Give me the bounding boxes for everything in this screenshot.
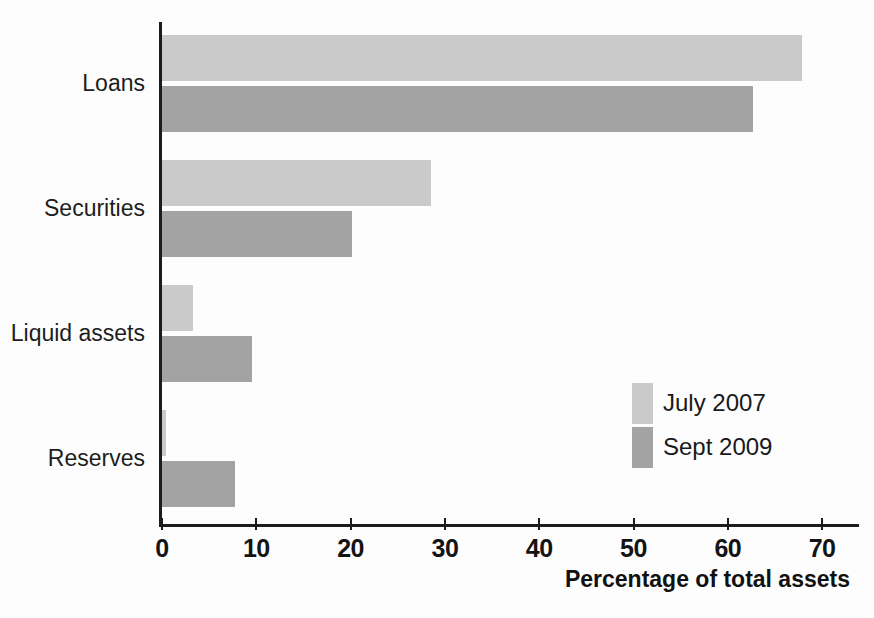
bar-loans-sept-2009: [162, 86, 753, 132]
category-label-reserves: Reserves: [48, 445, 145, 472]
x-axis-tick-20: [350, 518, 352, 530]
x-axis-title: Percentage of total assets: [565, 566, 850, 593]
legend-swatch-sept-2009: [632, 427, 653, 468]
x-axis-tick-label-30: 30: [431, 534, 458, 563]
x-axis-tick-60: [727, 518, 729, 530]
x-axis-tick-70: [821, 518, 823, 530]
x-axis-tick-40: [538, 518, 540, 530]
x-axis-tick-label-20: 20: [337, 534, 364, 563]
bar-reserves-sept-2009: [162, 461, 235, 507]
x-axis-line: [159, 524, 859, 527]
x-axis-tick-30: [444, 518, 446, 530]
bar-liquid-assets-sept-2009: [162, 336, 252, 382]
category-label-loans: Loans: [82, 70, 145, 97]
category-label-liquid-assets: Liquid assets: [11, 320, 145, 347]
bar-loans-july-2007: [162, 35, 802, 81]
x-axis-tick-0: [161, 518, 163, 530]
x-axis-tick-label-70: 70: [809, 534, 836, 563]
x-axis-tick-label-0: 0: [155, 534, 168, 563]
category-label-securities: Securities: [44, 195, 145, 222]
bar-securities-sept-2009: [162, 211, 352, 257]
bar-securities-july-2007: [162, 160, 431, 206]
bar-reserves-july-2007: [162, 410, 166, 456]
legend-label-july-2007: July 2007: [663, 389, 766, 417]
x-axis-tick-10: [255, 518, 257, 530]
bar-chart: 010203040506070 LoansSecuritiesLiquid as…: [0, 0, 874, 618]
x-axis-tick-50: [633, 518, 635, 530]
x-axis-tick-label-50: 50: [620, 534, 647, 563]
legend-label-sept-2009: Sept 2009: [663, 433, 772, 461]
x-axis-tick-label-40: 40: [526, 534, 553, 563]
legend-swatch-july-2007: [632, 383, 653, 424]
x-axis-tick-label-10: 10: [243, 534, 270, 563]
bar-liquid-assets-july-2007: [162, 285, 193, 331]
x-axis-tick-label-60: 60: [714, 534, 741, 563]
